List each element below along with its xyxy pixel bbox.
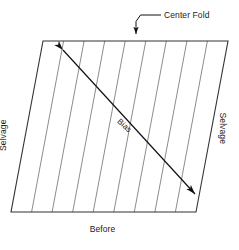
diagram-caption: Before — [0, 225, 205, 234]
center-fold-label: Center Fold — [164, 11, 210, 20]
grain-line — [52, 41, 84, 212]
grain-line — [134, 41, 166, 212]
selvage-label-left: Selvage — [0, 120, 7, 151]
grain-line — [32, 41, 64, 212]
grain-line — [175, 41, 207, 212]
selvage-label-right: Selvage — [219, 113, 228, 144]
diagram-canvas: Center Fold Selvage Selvage Bias Before — [0, 0, 239, 250]
center-fold-leader-line — [136, 15, 161, 34]
grain-line — [155, 41, 187, 212]
bias-arrow — [63, 50, 195, 194]
